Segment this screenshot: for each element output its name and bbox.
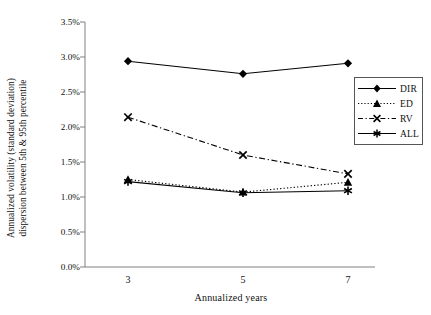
legend-item-all[interactable]: ALL bbox=[357, 126, 419, 141]
legend-label-ed: ED bbox=[397, 99, 413, 109]
legend: DIR ED RV bbox=[354, 77, 423, 145]
legend-label-all: ALL bbox=[397, 129, 419, 139]
series-all bbox=[124, 177, 352, 197]
legend-label-rv: RV bbox=[397, 114, 413, 124]
legend-item-rv[interactable]: RV bbox=[357, 111, 419, 126]
legend-swatch-ed bbox=[357, 97, 397, 110]
legend-swatch-rv bbox=[357, 112, 397, 125]
series-layer bbox=[124, 57, 352, 197]
legend-label-dir: DIR bbox=[397, 84, 417, 94]
series-rv bbox=[124, 114, 351, 178]
chart-figure: Annualized volatility (standard deviatio… bbox=[0, 0, 431, 315]
plot-area bbox=[0, 0, 431, 315]
series-dir bbox=[124, 57, 352, 78]
legend-swatch-dir bbox=[357, 82, 397, 95]
legend-item-ed[interactable]: ED bbox=[357, 96, 419, 111]
legend-item-dir[interactable]: DIR bbox=[357, 81, 419, 96]
legend-swatch-all bbox=[357, 127, 397, 140]
y-axis-ticks bbox=[80, 22, 85, 267]
